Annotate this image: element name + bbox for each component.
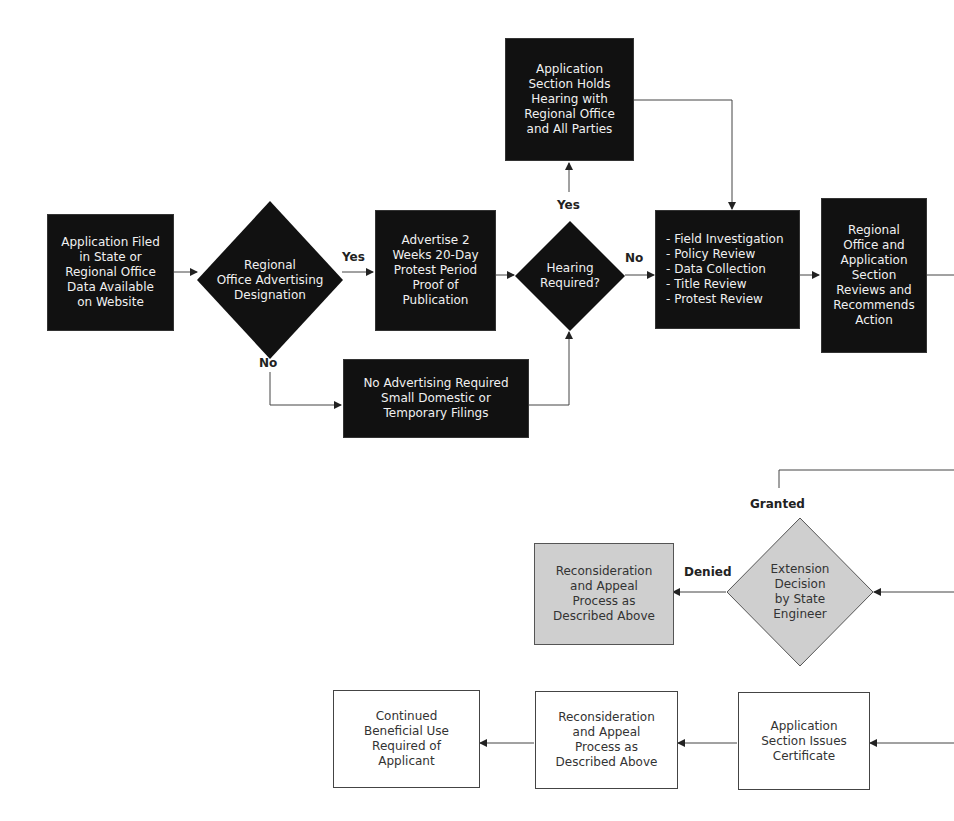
certificate-text: Application Section Issues Certificate bbox=[761, 719, 847, 764]
hearing-yes-label: Yes bbox=[557, 198, 580, 212]
hearing-box: Application Section Holds Hearing with R… bbox=[505, 38, 634, 161]
certificate-reconsideration-text: Reconsideration and Appeal Process as De… bbox=[556, 710, 658, 770]
certificate-reconsideration-box: Reconsideration and Appeal Process as De… bbox=[535, 691, 678, 789]
advertising-designation-text: Regional Office Advertising Designation bbox=[197, 201, 343, 359]
hearing-required-text: Hearing Required? bbox=[515, 221, 625, 331]
denied-label: Denied bbox=[684, 565, 731, 579]
advertising-no-label: No bbox=[259, 356, 277, 370]
continued-use-text: Continued Beneficial Use Required of App… bbox=[364, 709, 449, 769]
extension-reconsideration-box: Reconsideration and Appeal Process as De… bbox=[534, 543, 674, 645]
granted-label: Granted bbox=[750, 497, 805, 511]
regional-review-box: Regional Office and Application Section … bbox=[821, 198, 927, 353]
review-list-text: - Field Investigation - Policy Review - … bbox=[666, 232, 784, 307]
advertise-box: Advertise 2 Weeks 20-Day Protest Period … bbox=[375, 210, 496, 331]
continued-use-box: Continued Beneficial Use Required of App… bbox=[333, 690, 480, 788]
regional-review-text: Regional Office and Application Section … bbox=[833, 223, 914, 328]
advertising-yes-label: Yes bbox=[342, 250, 365, 264]
extension-reconsideration-text: Reconsideration and Appeal Process as De… bbox=[553, 564, 655, 624]
application-filed-text: Application Filed in State or Regional O… bbox=[61, 235, 160, 310]
application-filed-box: Application Filed in State or Regional O… bbox=[47, 214, 174, 331]
advertise-text: Advertise 2 Weeks 20-Day Protest Period … bbox=[392, 233, 478, 308]
advertising-designation-decision: Regional Office Advertising Designation bbox=[197, 201, 343, 359]
extension-decision: Extension Decision by State Engineer bbox=[726, 517, 874, 667]
certificate-box: Application Section Issues Certificate bbox=[738, 692, 870, 790]
review-list-box: - Field Investigation - Policy Review - … bbox=[655, 210, 800, 329]
no-advertising-text: No Advertising Required Small Domestic o… bbox=[363, 376, 508, 421]
extension-decision-text: Extension Decision by State Engineer bbox=[726, 517, 874, 667]
no-advertising-box: No Advertising Required Small Domestic o… bbox=[343, 359, 529, 438]
hearing-no-label: No bbox=[625, 251, 643, 265]
hearing-required-decision: Hearing Required? bbox=[515, 221, 625, 331]
hearing-text: Application Section Holds Hearing with R… bbox=[524, 62, 615, 137]
